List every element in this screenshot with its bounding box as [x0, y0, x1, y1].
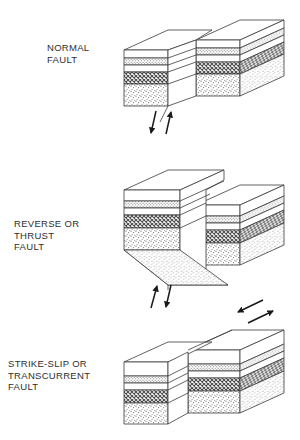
normal-fault-trace: [160, 106, 168, 122]
arrow-left: [238, 300, 263, 312]
reverse-fault-footwall-block: [196, 185, 284, 265]
block-diagram-normal-fault: [124, 20, 284, 134]
arrow-down-right: [166, 285, 171, 307]
fault-types-figure: NORMAL FAULT REVERSE OR THRUST FAULT STR…: [0, 0, 300, 440]
arrow-down-left: [151, 111, 156, 133]
panel-label-normal-fault: NORMAL FAULT: [47, 42, 89, 65]
normal-fault-motion-arrows: [151, 111, 171, 134]
block-diagram-reverse-thrust-fault: [124, 170, 284, 308]
strike-slip-motion-arrows: [238, 300, 273, 323]
arrow-up-left: [151, 286, 157, 308]
panel-label-reverse-thrust-fault: REVERSE OR THRUST FAULT: [14, 218, 79, 253]
arrow-up-right: [166, 112, 171, 134]
panel-label-strike-slip-fault: STRIKE-SLIP OR TRANSCURRENT FAULT: [8, 358, 90, 393]
arrow-right: [248, 311, 273, 323]
block-diagram-strike-slip-fault: [124, 300, 284, 424]
